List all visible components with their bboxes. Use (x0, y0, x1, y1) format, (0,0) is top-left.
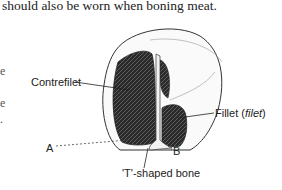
label-point-a: A (46, 142, 53, 154)
contrefilet-region (113, 51, 156, 145)
label-point-b: B (173, 145, 180, 157)
label-fillet: Fillet (filet) (215, 107, 266, 119)
fillet-region (162, 105, 187, 147)
t-bone-steak-illustration (0, 0, 282, 190)
label-t-shaped-bone: 'T'-shaped bone (122, 167, 200, 179)
label-contrefilet: Contrefilet (31, 76, 81, 88)
